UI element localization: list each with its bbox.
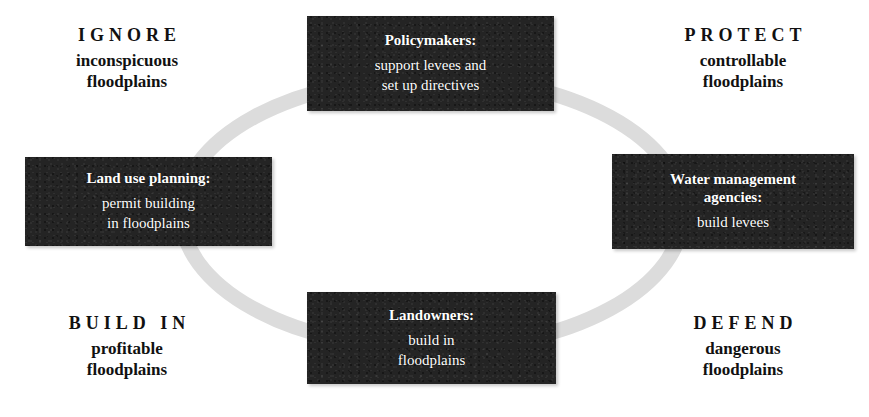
actor-box-policymakers: Policymakers: support levees and set up … xyxy=(307,16,554,111)
strategy-keyword-protect: PROTECT xyxy=(628,24,858,47)
floodplain-cycle-diagram: Policymakers: support levees and set up … xyxy=(0,0,869,417)
actor-line-water-management-1: build levees xyxy=(697,213,769,233)
actor-line-landowners-2: floodplains xyxy=(398,351,466,371)
strategy-label-defend: DEFEND dangerous floodplains xyxy=(628,312,858,381)
actor-box-landowners: Landowners: build in floodplains xyxy=(307,292,556,384)
actor-title-land-use-planning: Land use planning: xyxy=(86,169,210,187)
strategy-descriptor-protect-1: controllable xyxy=(628,50,858,72)
strategy-descriptor-defend-2: floodplains xyxy=(628,359,858,381)
strategy-descriptor-defend-1: dangerous xyxy=(628,338,858,360)
strategy-descriptor-build-in-1: profitable xyxy=(12,338,242,360)
actor-title-policymakers: Policymakers: xyxy=(385,31,477,49)
actor-title-water-management-2: agencies: xyxy=(704,188,762,206)
strategy-keyword-build-in: BUILD IN xyxy=(12,312,242,335)
strategy-descriptor-ignore-1: inconspicuous xyxy=(12,50,242,72)
actor-line-policymakers-1: support levees and xyxy=(375,56,487,76)
strategy-descriptor-protect-2: floodplains xyxy=(628,71,858,93)
strategy-label-protect: PROTECT controllable floodplains xyxy=(628,24,858,93)
actor-title-landowners: Landowners: xyxy=(389,306,474,324)
strategy-keyword-ignore: IGNORE xyxy=(12,24,242,47)
actor-line-landowners-1: build in xyxy=(408,331,454,351)
actor-box-land-use-planning: Land use planning: permit building in fl… xyxy=(25,157,272,246)
strategy-label-ignore: IGNORE inconspicuous floodplains xyxy=(12,24,242,93)
actor-line-land-use-planning-1: permit building xyxy=(102,194,195,214)
strategy-descriptor-ignore-2: floodplains xyxy=(12,71,242,93)
actor-line-land-use-planning-2: in floodplains xyxy=(107,214,190,234)
strategy-keyword-defend: DEFEND xyxy=(628,312,858,335)
strategy-label-build-in: BUILD IN profitable floodplains xyxy=(12,312,242,381)
actor-box-water-management-agencies: Water management agencies: build levees xyxy=(612,154,854,249)
actor-line-policymakers-2: set up directives xyxy=(382,76,479,96)
strategy-descriptor-build-in-2: floodplains xyxy=(12,359,242,381)
actor-title-water-management-1: Water management xyxy=(670,170,796,188)
